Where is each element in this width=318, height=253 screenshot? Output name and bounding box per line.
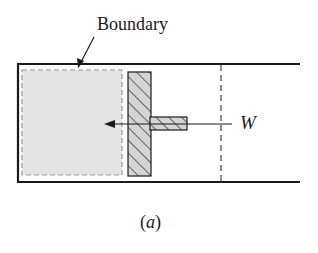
figure-caption: (a)	[140, 212, 161, 233]
caption-letter: a	[146, 212, 155, 232]
caption-close-paren: )	[155, 212, 161, 232]
piston-cylinder-diagram: Boundary W (a)	[0, 0, 318, 253]
gas-region	[22, 70, 122, 175]
boundary-label: Boundary	[97, 14, 168, 35]
work-label: W	[240, 112, 256, 134]
